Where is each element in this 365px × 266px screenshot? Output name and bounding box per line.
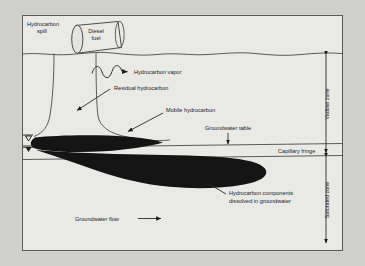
groundwater-table-label: Groundwater table (205, 125, 251, 131)
saturated-zone-label: Saturated zone (324, 182, 330, 219)
groundwater-flow-label: Groundwater flow (75, 216, 120, 222)
mobile-label: Mobile hydrocarbon (166, 107, 215, 113)
spill-label-line1: Hydrocarbon (27, 21, 59, 27)
dissolved-label-line1: Hydrocarbon components (229, 190, 293, 196)
tank-label-line2: fuel (91, 35, 100, 41)
residual-label: Residual hydrocarbon (114, 85, 168, 91)
diagram-border (23, 16, 343, 251)
vapor-label: Hydrocarbon vapor (134, 69, 182, 75)
diesel-fuel-tank: Diesel fuel (72, 21, 124, 53)
spill-label-line2: spill (37, 28, 47, 34)
vadose-zone-label: Vadose zone (324, 88, 330, 119)
capillary-fringe-label: Capillary fringe (278, 148, 315, 154)
tank-label-line1: Diesel (88, 28, 104, 34)
figure-canvas: Diesel fuel Hydrocarbon spill Hydrocarbo… (0, 0, 365, 266)
dissolved-label-line2: dissolved in groundwater (229, 198, 291, 204)
